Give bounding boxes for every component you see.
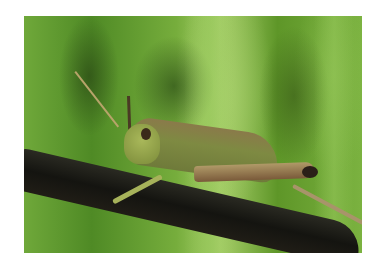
grasshopper-hind-leg <box>194 162 314 182</box>
grasshopper-photo <box>24 16 362 253</box>
grasshopper-antenna <box>74 71 119 127</box>
grasshopper-eye <box>141 128 151 140</box>
grasshopper-leg-joint <box>302 166 318 178</box>
